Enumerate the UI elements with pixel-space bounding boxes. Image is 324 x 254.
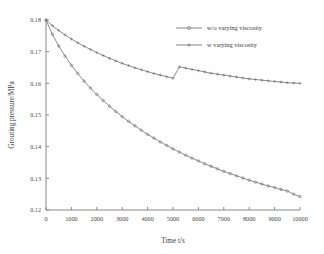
x-tick-label: 9000 <box>268 215 280 222</box>
x-tick-label: 8000 <box>243 215 255 222</box>
figure-container: 0.120.130.140.150.160.170.18 01000200030… <box>0 0 324 254</box>
x-tick-label: 7000 <box>218 215 230 222</box>
y-tick-label: 0.14 <box>30 143 41 150</box>
y-tick-label: 0.13 <box>30 175 41 182</box>
legend-label: w varying viscosity <box>207 41 258 48</box>
y-tick-label: 0.12 <box>30 206 41 213</box>
y-tick-label: 0.18 <box>30 16 41 23</box>
x-axis-label: Time t/s <box>161 237 185 245</box>
x-tick-label: 2000 <box>91 215 103 222</box>
x-tick-label: 10000 <box>292 215 307 222</box>
y-tick-label: 0.17 <box>30 48 41 55</box>
y-tick-label: 0.15 <box>30 111 41 118</box>
x-tick-label: 0 <box>44 215 47 222</box>
x-tick-label: 4000 <box>141 215 153 222</box>
legend-label: w/o varying viscosity <box>207 24 263 31</box>
x-tick-label: 1000 <box>65 215 77 222</box>
x-tick-label: 3000 <box>116 215 128 222</box>
y-axis-label: Grouting pressure/MPa <box>8 81 16 149</box>
grouting-pressure-chart: 0.120.130.140.150.160.170.18 01000200030… <box>0 0 324 254</box>
x-tick-label: 6000 <box>192 215 204 222</box>
x-tick-label: 5000 <box>167 215 179 222</box>
y-tick-label: 0.16 <box>30 80 41 87</box>
